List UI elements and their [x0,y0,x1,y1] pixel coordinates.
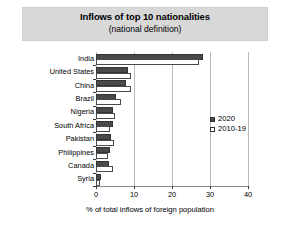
legend-label-2010-19: 2010-19 [218,124,246,134]
chart-legend: 2020 2010-19 [210,114,246,134]
category-label-united-states: United States [50,68,94,76]
bar-2010-19-brazil [96,99,121,105]
y-tick-1 [93,79,96,80]
y-tick-4 [93,119,96,120]
y-tick-2 [93,92,96,93]
category-label-syria: Syria [77,175,94,183]
y-tick-6 [93,146,96,147]
x-tick-mark-40 [248,186,249,189]
chart-figure: Inflows of top 10 nationalities (nationa… [0,0,300,228]
x-tick-label-20: 20 [162,190,182,199]
gridline-40 [248,52,249,186]
legend-swatch-filled-icon [210,117,215,122]
x-tick-label-0: 0 [86,190,106,199]
x-tick-label-10: 10 [124,190,144,199]
bar-2010-19-canada [96,166,113,172]
x-tick-label-30: 30 [200,190,220,199]
bar-2010-19-pakistan [96,140,114,146]
y-tick-0 [93,65,96,66]
y-tick-5 [93,132,96,133]
x-axis-title: % of total inflows of foreign population [0,205,300,214]
chart-title: Inflows of top 10 nationalities [23,11,267,23]
x-tick-mark-20 [172,186,173,189]
bar-2010-19-united-states [96,73,131,79]
category-label-philippines: Philippines [58,149,94,157]
category-label-canada: Canada [68,162,94,170]
x-tick-mark-0 [96,186,97,189]
category-label-china: China [75,82,94,90]
bar-2010-19-philippines [96,153,108,159]
y-tick-7 [93,159,96,160]
chart-title-band: Inflows of top 10 nationalities (nationa… [22,7,268,41]
category-label-south-africa: South Africa [54,122,94,130]
legend-swatch-open-icon [210,127,215,132]
legend-item-2020: 2020 [210,114,246,124]
chart-subtitle: (national definition) [23,23,267,35]
gridline-10 [134,52,135,186]
category-label-nigeria: Nigeria [71,108,94,116]
category-label-pakistan: Pakistan [66,135,94,143]
bar-2010-19-china [96,86,131,92]
x-tick-mark-10 [134,186,135,189]
x-tick-mark-30 [210,186,211,189]
legend-label-2020: 2020 [218,114,235,124]
legend-item-2010-19: 2010-19 [210,124,246,134]
bar-2010-19-nigeria [96,113,115,119]
category-label-brazil: Brazil [76,95,94,103]
category-label-india: India [78,55,94,63]
x-tick-label-40: 40 [238,190,258,199]
bar-2010-19-india [96,59,199,65]
gridline-20 [172,52,173,186]
bar-2010-19-south-africa [96,126,110,132]
